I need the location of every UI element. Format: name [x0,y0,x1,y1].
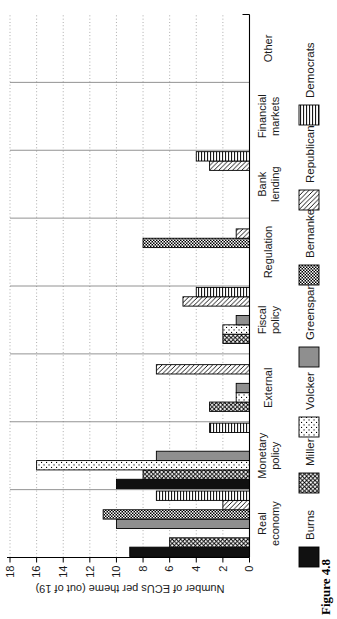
legend-item-burns: Burns [299,510,319,567]
bar-miller-fiscal-policy [223,334,250,343]
legend-swatch-bernanke [299,265,319,285]
y-tick-label-2: 2 [217,566,229,572]
y-tick-label-6: 6 [163,566,175,572]
y-axis-label: Number of ECUs per theme (out of 19) [36,583,225,595]
svg-text:policy: policy [269,441,281,470]
category-labels: RealeconomyMonetarypolicyExternalFiscalp… [256,34,281,546]
bar-volcker-monetary-policy [37,461,250,470]
category-label-bank-lending: Banklending [256,166,281,201]
legend-swatch-volcker [299,417,319,437]
y-tick-label-0: 0 [243,566,255,572]
rotated-figure: Number of ECUs per theme (out of 19)0246… [0,0,337,619]
bar-republicans-fiscal-policy [183,297,250,306]
category-label-monetary-policy: Monetarypolicy [256,432,281,478]
bar-greenspan-fiscal-policy [236,315,249,324]
category-label-regulation: Regulation [262,226,274,279]
y-tick-label-10: 10 [110,566,122,578]
bar-republicans-external [156,365,249,374]
legend-swatch-burns [299,547,319,567]
bar-greenspan-real-economy [116,519,249,528]
bar-democrats-real-economy [156,491,249,500]
bar-miller-real-economy [170,538,250,547]
legend-swatch-greenspan [299,347,319,367]
y-tick-label-18: 18 [4,566,16,578]
bar-greenspan-external [236,383,249,392]
legend-label-republicans: Republicans [304,119,316,183]
legend-label-burns: Burns [304,510,316,540]
svg-text:Financial: Financial [256,94,268,138]
category-label-external: External [262,368,274,408]
bar-republicans-real-economy [223,500,250,509]
legend-swatch-democrats [299,105,319,125]
bar-democrats-bank-lending [196,152,249,161]
bar-volcker-external [236,393,249,402]
bar-burns-real-economy [130,547,250,556]
svg-text:Fiscal: Fiscal [256,306,268,335]
y-tick-label-4: 4 [190,566,202,572]
legend-label-greenspan: Greenspan [304,283,316,340]
y-tick-label-16: 16 [30,566,42,578]
category-label-fiscal-policy: Fiscalpolicy [256,305,281,334]
y-tick-label-14: 14 [57,566,69,578]
y-tick-label-8: 8 [137,566,149,572]
bar-greenspan-monetary-policy [156,451,249,460]
bar-miller-monetary-policy [143,470,249,479]
category-label-real-economy: Realeconomy [256,501,281,546]
svg-text:External: External [262,368,274,408]
book-page: Number of ECUs per theme (out of 19)0246… [0,0,337,619]
category-label-financial-markets: Financialmarkets [256,94,281,138]
ecus-per-theme-bar-chart: Number of ECUs per theme (out of 19)0246… [0,0,337,619]
legend: BurnsMillerVolckerGreenspanBernankeRepub… [299,42,319,567]
category-label-other: Other [262,34,274,62]
legend-item-volcker: Volcker [299,372,319,437]
figure-caption: Figure 4.8 [318,558,333,615]
bar-bernanke-regulation [143,238,249,247]
bar-democrats-monetary-policy [210,423,250,432]
svg-text:lending: lending [269,166,281,201]
bar-burns-monetary-policy [116,479,249,488]
svg-text:markets: markets [269,96,281,136]
legend-item-bernanke: Bernanke [299,209,319,285]
legend-item-miller: Miller [299,438,319,493]
legend-label-democrats: Democrats [304,42,316,98]
legend-label-miller: Miller [304,438,316,466]
legend-label-volcker: Volcker [304,372,316,410]
legend-item-republicans: Republicans [299,119,319,210]
svg-text:Regulation: Regulation [262,226,274,279]
svg-text:economy: economy [269,501,281,546]
bar-republicans-regulation [236,229,249,238]
legend-label-bernanke: Bernanke [304,209,316,258]
svg-text:policy: policy [269,305,281,334]
bar-republicans-bank-lending [210,161,250,170]
legend-swatch-miller [299,473,319,493]
bar-volcker-fiscal-policy [223,325,250,334]
svg-text:Real: Real [256,512,268,535]
y-tick-label-12: 12 [84,566,96,578]
y-axis-ticks: 024681012141618 [4,558,256,578]
bar-bernanke-real-economy [103,510,249,519]
svg-text:Bank: Bank [256,171,268,197]
legend-item-greenspan: Greenspan [299,283,319,367]
bar-miller-external [210,402,250,411]
svg-text:Other: Other [262,34,274,62]
bar-democrats-fiscal-policy [196,287,249,296]
svg-text:Monetary: Monetary [256,432,268,478]
legend-swatch-republicans [299,190,319,210]
legend-item-democrats: Democrats [299,42,319,125]
